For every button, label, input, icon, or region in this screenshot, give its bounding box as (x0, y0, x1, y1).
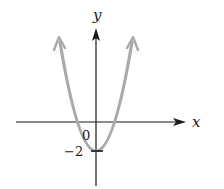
y-axis-label: y (92, 6, 102, 24)
x-axis-label: x (192, 113, 201, 131)
y-intercept-label: −2 (64, 144, 83, 159)
origin-label: 0 (82, 128, 90, 143)
parabola-graph: y x 0 −2 (0, 0, 224, 189)
